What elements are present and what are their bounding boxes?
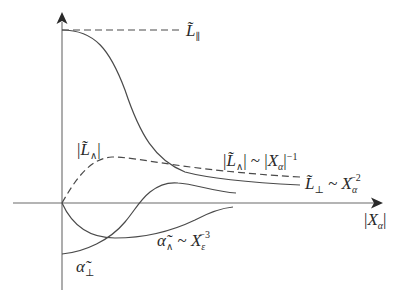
label-L-parallel: L̃∥: [185, 21, 200, 42]
label-var: X: [267, 151, 279, 170]
label-close: |: [97, 140, 100, 159]
label-var-sub: ε: [201, 241, 205, 252]
label-abs-L-wedge: |L̃∧|: [77, 140, 101, 161]
label-sim: ~: [324, 174, 342, 193]
label-sub: ∧: [236, 161, 243, 172]
label-alpha-perp: α̃⊥: [76, 257, 94, 278]
label-sim: ~: [173, 231, 191, 250]
label-exp: −3: [199, 229, 210, 240]
curve-alpha-perp: [62, 183, 236, 254]
label-exp: −2: [350, 172, 361, 183]
label-exp: −1: [287, 151, 298, 162]
label-sub: ⊥: [314, 184, 323, 195]
label-mid: | ~ |: [243, 151, 268, 170]
label-main: L̃: [304, 174, 314, 193]
schematic-plot: L̃∥ |L̃∧| |L̃∧| ~ |Xα|−1 L̃⊥ ~ Xα−2 |Xα|…: [0, 0, 401, 302]
x-axis-label: |Xα|: [364, 210, 386, 231]
label-main: L̃: [185, 21, 195, 40]
label-alpha-wedge-asymptote: α̃∧ ~ Xε−3: [157, 229, 210, 252]
label-main: L̃: [225, 151, 235, 170]
label-var-sub: α: [352, 184, 358, 195]
label-close: |: [383, 210, 386, 229]
label-main: L̃: [79, 140, 89, 159]
label-sub: ∧: [166, 241, 173, 252]
label-main: X: [366, 210, 378, 229]
label-sub: ∥: [195, 31, 200, 42]
label-sub: ∧: [90, 150, 97, 161]
label-L-perp-asymptote: L̃⊥ ~ Xα−2: [304, 172, 361, 195]
label-L-wedge-asymptote: |L̃∧| ~ |Xα|−1: [223, 151, 297, 172]
label-sub: ⊥: [85, 267, 94, 278]
